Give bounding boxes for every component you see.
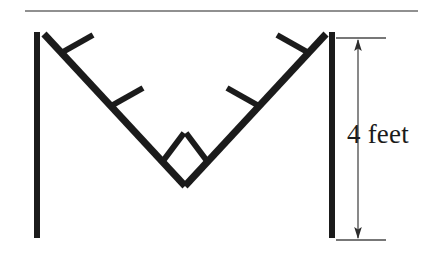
rung-right-upper bbox=[277, 35, 309, 53]
rung-left-lower bbox=[163, 133, 184, 161]
right-diagonal-beam bbox=[185, 34, 326, 186]
rung-right-lower bbox=[186, 133, 207, 161]
rung-left-upper bbox=[61, 35, 93, 53]
rung-left-middle bbox=[111, 88, 143, 106]
figure-root: 4 feet bbox=[0, 0, 443, 264]
dimension-label: 4 feet bbox=[347, 117, 409, 151]
left-diagonal-beam bbox=[44, 34, 185, 186]
rung-right-middle bbox=[227, 88, 259, 106]
